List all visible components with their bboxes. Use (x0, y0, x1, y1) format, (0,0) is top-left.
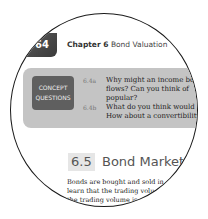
question-line: popular? (106, 94, 137, 103)
chapter-label: Chapter 6 (67, 40, 108, 49)
page-number-tab: 64 (10, 33, 57, 57)
section-title: Bond Markets (102, 153, 191, 171)
concept-questions-badge: CONCEPT QUESTIONS (32, 76, 74, 110)
magnifier-lens: 64 Chapter 6 Bond Valuation CONCEPT QUES… (10, 13, 198, 207)
section-number: 6.5 (68, 153, 95, 171)
body-line: Bonds are bought and sold in (67, 178, 164, 186)
badge-line-1: CONCEPT (32, 83, 74, 93)
body-line: the trading volume is (67, 196, 137, 204)
question-line: How about a convertibility (106, 112, 198, 121)
chapter-title: Bond Valuation (111, 40, 168, 49)
body-line: learn that the trading volu (67, 187, 154, 195)
question-line: What do you think would b (106, 103, 198, 112)
textbook-page: 64 Chapter 6 Bond Valuation CONCEPT QUES… (10, 13, 198, 207)
question-line: Why might an income bon (106, 76, 198, 85)
badge-line-2: QUESTIONS (32, 93, 74, 103)
question-number: 6.4b (83, 104, 96, 111)
page-number: 64 (35, 39, 49, 50)
question-line: flows? Can you think of (106, 85, 189, 94)
running-header: Chapter 6 Bond Valuation (67, 40, 167, 49)
question-number: 6.4a (83, 77, 96, 84)
